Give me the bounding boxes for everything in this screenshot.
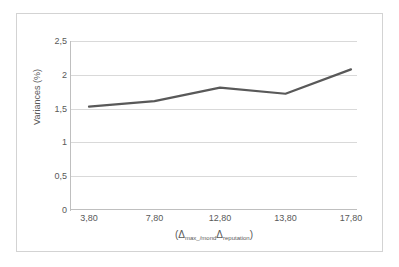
x-title-subscript-2: reputation xyxy=(223,235,250,241)
delta-symbol-2: Δ xyxy=(216,229,223,240)
y-tick-label: 2,5 xyxy=(27,37,67,46)
plot-area xyxy=(71,41,357,210)
x-axis-tick-labels: 3,80 7,80 12,80 13,80 17,80 xyxy=(71,214,357,228)
y-axis-title: Variances (%) xyxy=(32,47,42,147)
y-tick-label: 0,5 xyxy=(27,172,67,181)
series-line-variances xyxy=(71,41,357,210)
x-title-close-paren: ) xyxy=(250,229,253,240)
x-axis-title: (Δmax_/mondΔreputation) xyxy=(71,229,357,240)
x-tick-label: 3,80 xyxy=(80,214,98,223)
x-tick-label: 17,80 xyxy=(340,214,363,223)
chart-frame: 2,5 2 1,5 1 0,5 0 3,80 7,80 12,80 13,80 … xyxy=(16,13,383,252)
x-tick-label: 13,80 xyxy=(274,214,297,223)
x-tick-label: 12,80 xyxy=(209,214,232,223)
y-tick-label: 0 xyxy=(27,206,67,215)
x-tick-label: 7,80 xyxy=(146,214,164,223)
x-title-subscript-1: max_/mond xyxy=(185,235,216,241)
y-axis-tick-labels: 2,5 2 1,5 1 0,5 0 xyxy=(23,41,67,210)
delta-symbol-1: Δ xyxy=(178,229,185,240)
